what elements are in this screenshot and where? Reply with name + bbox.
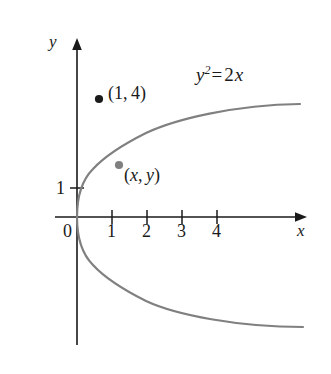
- point-b-comma: ,: [138, 165, 143, 185]
- y-axis-label: y: [49, 33, 57, 50]
- point-label-x-y: (x, y): [124, 166, 160, 184]
- x-axis-tick-label-4: 4: [212, 222, 221, 240]
- point-a-comma: ,: [123, 83, 128, 103]
- point-b-x-value: x: [130, 165, 138, 185]
- x-axis-tick-label-1: 1: [107, 222, 116, 240]
- point-marker-x-y: [115, 161, 123, 169]
- point-label-1-4: (1, 4): [108, 84, 146, 102]
- x-axis-tick-label-3: 3: [177, 222, 186, 240]
- close-paren: ): [140, 83, 146, 103]
- y-axis-tick-label-1: 1: [56, 179, 65, 197]
- equation-coefficient: 2: [223, 64, 235, 85]
- parabola-curve-group: [77, 104, 303, 327]
- curve-equation-label: y2=2x: [196, 64, 243, 84]
- axes-group: [55, 38, 307, 345]
- parabola-upper-branch: [77, 104, 300, 217]
- close-paren: ): [154, 165, 160, 185]
- x-axis-tick-label-2: 2: [142, 222, 151, 240]
- point-b-y-value: y: [146, 165, 154, 185]
- equation-variable: x: [235, 64, 243, 85]
- plot-canvas: [0, 0, 331, 374]
- tick-marks-group: [70, 188, 217, 224]
- point-a-x-value: 1: [114, 83, 123, 103]
- origin-label: 0: [63, 222, 72, 240]
- point-a-y-value: 4: [131, 83, 140, 103]
- y-axis-arrowhead: [72, 38, 82, 50]
- parabola-figure: y x y2=2x (1, 4) (x, y) 1 0 1 2 3 4: [0, 0, 331, 374]
- data-points-group: [95, 95, 123, 169]
- x-axis-label: x: [297, 222, 305, 239]
- equation-equals-sign: =: [210, 64, 223, 85]
- point-marker-1-4: [95, 95, 103, 103]
